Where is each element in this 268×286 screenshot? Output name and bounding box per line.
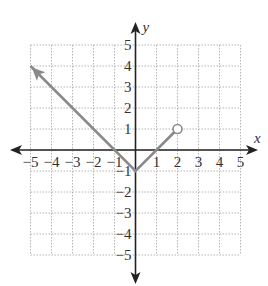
x-tick-label: 3: [195, 154, 203, 170]
x-tick-label: 2: [174, 154, 182, 170]
x-tick-label: −3: [65, 154, 81, 170]
y-tick-label: 1: [124, 121, 132, 137]
x-axis-label: x: [253, 130, 261, 146]
y-tick-label: 4: [124, 58, 132, 74]
x-tick-label: 1: [153, 154, 161, 170]
y-tick-label: 5: [124, 37, 132, 53]
x-tick-label: −5: [23, 154, 39, 170]
y-tick-label: 3: [124, 79, 132, 95]
axes: [10, 22, 258, 284]
y-tick-label: −5: [116, 247, 132, 263]
x-tick-label: −4: [44, 154, 60, 170]
open-circle-endpoint-icon: [173, 125, 182, 134]
y-tick-label: −2: [116, 184, 132, 200]
coordinate-plane: −5−4−3−2−11234554321−1−2−3−4−5 x y: [0, 0, 268, 286]
x-tick-label: 5: [237, 154, 245, 170]
x-tick-label: 4: [216, 154, 224, 170]
y-tick-label: −4: [116, 226, 132, 242]
x-tick-label: −2: [86, 154, 102, 170]
y-tick-label: −3: [116, 205, 132, 221]
y-tick-label: 2: [124, 100, 132, 116]
y-axis-label: y: [141, 19, 150, 35]
